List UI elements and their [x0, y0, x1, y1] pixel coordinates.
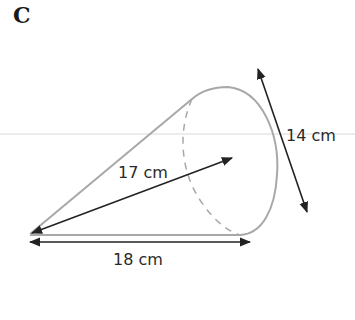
length-label: 18 cm	[113, 250, 163, 269]
slant-height-label: 17 cm	[118, 163, 168, 182]
cone-diagram: 17 cm 18 cm 14 cm	[0, 0, 355, 320]
diameter-label: 14 cm	[286, 126, 336, 145]
cone-outline	[30, 87, 277, 235]
cone-hidden-edge	[183, 99, 240, 235]
